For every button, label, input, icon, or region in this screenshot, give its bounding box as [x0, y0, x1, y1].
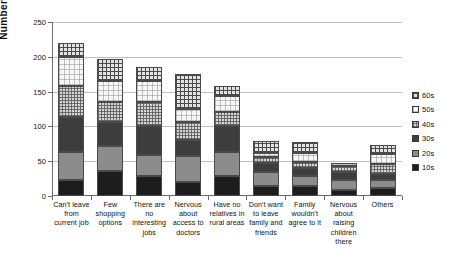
- x-axis-label: Don't wantto leavefamily andfriends: [245, 200, 287, 237]
- legend-swatch-icon: [412, 106, 419, 113]
- x-axis-label-line: Nervous: [323, 200, 365, 209]
- bar-segment-30s: [97, 122, 123, 146]
- bar-segment-50s: [136, 81, 162, 102]
- bar-segment-30s: [370, 174, 396, 180]
- x-axis-tick-mark: [130, 196, 131, 200]
- bar-segment-10s: [175, 182, 201, 196]
- bar-series-layer: [52, 22, 402, 196]
- legend-label: 30s: [422, 134, 434, 143]
- x-axis-labels: Can't leavefromcurrent jobFewshoppingopt…: [52, 200, 402, 264]
- bar-segment-60s: [370, 145, 396, 154]
- bar-segment-30s: [292, 168, 318, 176]
- bar-segment-40s: [175, 122, 201, 139]
- legend-label: 10s: [422, 163, 434, 172]
- bar-column: [175, 22, 201, 196]
- x-axis-label-line: family and: [245, 218, 287, 227]
- x-axis-label-line: Few: [89, 200, 131, 209]
- legend-label: 20s: [422, 149, 434, 158]
- x-axis-label: There arenointerestingjobs: [128, 200, 170, 237]
- x-axis-label-line: Can't leave: [50, 200, 92, 209]
- x-axis-label-line: raising: [323, 218, 365, 227]
- legend-item-30s[interactable]: 30s: [412, 132, 466, 147]
- y-axis-tick-label: 0: [22, 192, 46, 201]
- bar-segment-30s: [136, 126, 162, 155]
- legend-label: 50s: [422, 105, 434, 114]
- x-axis-label-line: about: [167, 209, 209, 218]
- bar-segment-20s: [253, 172, 279, 187]
- y-axis-tick-label: 200: [22, 52, 46, 61]
- legend-swatch-icon: [412, 121, 419, 128]
- bar-segment-60s: [97, 59, 123, 81]
- x-axis-label-line: doctors: [167, 228, 209, 237]
- x-axis-label-line: friends: [245, 228, 287, 237]
- bar-segment-40s: [370, 164, 396, 174]
- y-axis-tick-label: 50: [22, 157, 46, 166]
- x-axis-label-line: from: [50, 209, 92, 218]
- x-axis-label-line: children: [323, 228, 365, 237]
- bar-segment-30s: [58, 117, 84, 152]
- y-axis-tick-label: 150: [22, 87, 46, 96]
- bar-segment-20s: [331, 180, 357, 190]
- bar-segment-20s: [370, 180, 396, 188]
- bar-segment-30s: [253, 163, 279, 172]
- x-axis-tick-mark: [363, 196, 364, 200]
- x-axis-label-line: rural areas: [206, 218, 248, 227]
- x-axis-tick-mark: [324, 196, 325, 200]
- bar-segment-40s: [97, 102, 123, 122]
- bar-segment-60s: [253, 141, 279, 153]
- bar-segment-40s: [136, 102, 162, 126]
- y-axis-title: Number of answers: [0, 0, 9, 50]
- bar-segment-10s: [136, 176, 162, 196]
- x-axis-label-line: Don't want: [245, 200, 287, 209]
- bar-segment-40s: [253, 157, 279, 163]
- bar-segment-10s: [370, 188, 396, 196]
- x-axis-label-line: relatives in: [206, 209, 248, 218]
- bar-segment-40s: [331, 166, 357, 172]
- legend-item-10s[interactable]: 10s: [412, 161, 466, 176]
- bar-column: [331, 22, 357, 196]
- x-axis-label-line: Others: [362, 200, 404, 209]
- stacked-bar-chart: Number of answers 050100150200250 Can't …: [0, 0, 466, 264]
- x-axis-label: Nervousaboutaccess todoctors: [167, 200, 209, 237]
- bar-segment-50s: [58, 57, 84, 86]
- x-axis-tick-mark: [285, 196, 286, 200]
- x-axis-label-line: wouldn't: [284, 209, 326, 218]
- bar-segment-10s: [331, 190, 357, 196]
- bar-column: [97, 22, 123, 196]
- legend-swatch-icon: [412, 164, 419, 171]
- legend-swatch-icon: [412, 92, 419, 99]
- x-axis-label-line: There are: [128, 200, 170, 209]
- bar-segment-50s: [331, 163, 357, 166]
- bar-segment-50s: [97, 81, 123, 102]
- bar-segment-60s: [136, 67, 162, 81]
- x-axis-label-line: shopping: [89, 209, 131, 218]
- bar-segment-20s: [136, 155, 162, 176]
- x-axis-tick-mark: [246, 196, 247, 200]
- bar-segment-50s: [175, 109, 201, 122]
- legend-label: 60s: [422, 91, 434, 100]
- bar-segment-20s: [175, 156, 201, 182]
- x-axis-label: Others: [362, 200, 404, 209]
- x-axis-tick-mark: [169, 196, 170, 200]
- legend-item-60s[interactable]: 60s: [412, 88, 466, 103]
- legend-item-50s[interactable]: 50s: [412, 103, 466, 118]
- x-axis-label-line: Family: [284, 200, 326, 209]
- bar-segment-20s: [58, 152, 84, 180]
- x-axis-tick-mark: [208, 196, 209, 200]
- x-axis-label-line: Nervous: [167, 200, 209, 209]
- legend-item-20s[interactable]: 20s: [412, 146, 466, 161]
- bar-segment-60s: [58, 43, 84, 57]
- bar-segment-40s: [214, 112, 240, 126]
- bar-segment-30s: [175, 140, 201, 156]
- x-axis-tick-mark: [402, 196, 403, 200]
- bar-segment-10s: [58, 180, 84, 196]
- x-axis-label: Can't leavefromcurrent job: [50, 200, 92, 228]
- x-axis-label-line: interesting: [128, 218, 170, 227]
- chart-legend: 60s50s40s30s20s10s: [412, 88, 466, 175]
- bar-segment-50s: [214, 96, 240, 112]
- bar-segment-10s: [97, 171, 123, 196]
- x-axis-label: Have norelatives inrural areas: [206, 200, 248, 228]
- x-axis-label-line: no: [128, 209, 170, 218]
- legend-item-40s[interactable]: 40s: [412, 117, 466, 132]
- bar-segment-20s: [214, 152, 240, 176]
